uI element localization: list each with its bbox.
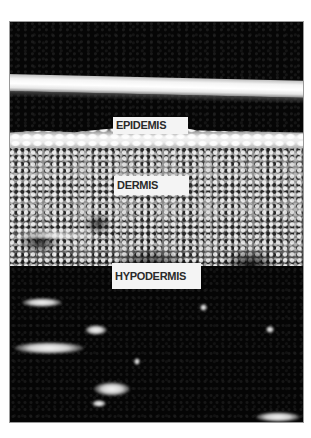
hypodermis-speckle [94,382,130,396]
hypodermis-speckle [14,342,84,354]
hypodermis-speckle [92,400,106,407]
hypodermis-speckle [134,358,140,365]
skin-layers-image: EPIDEMIS DERMIS HYPODERMIS [9,21,304,423]
hypodermis-speckle [200,304,207,311]
label-dermis: DERMIS [114,176,189,195]
label-hypodermis: HYPODERMIS [112,263,201,289]
hypodermis-speckle [22,298,62,307]
hypodermis-speckle [256,412,300,422]
label-hypodermis-text: HYPODERMIS [115,271,186,282]
hypodermis-speckle [266,326,274,333]
label-dermis-text: DERMIS [117,180,158,191]
dermis-bright-streak [14,232,94,238]
label-epidermis: EPIDEMIS [113,117,188,134]
label-epidermis-text: EPIDEMIS [116,120,166,131]
hypodermis-speckle [85,325,107,335]
